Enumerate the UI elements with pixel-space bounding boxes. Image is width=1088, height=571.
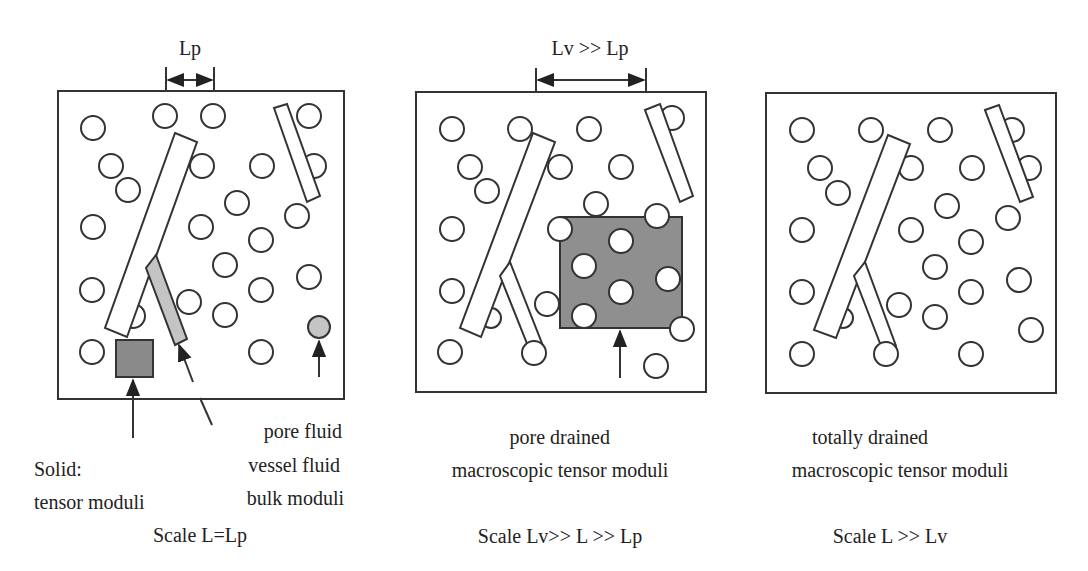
- pore-circle: [874, 342, 898, 366]
- diagram-canvas: [0, 0, 1088, 571]
- panel3-label-line2: macroscopic tensor moduli: [730, 458, 1070, 482]
- dimension-label-lp: Lp: [140, 36, 240, 60]
- panel2-label-line1: pore drained: [450, 425, 610, 449]
- dimension-label-lv: Lv >> Lp: [510, 36, 670, 60]
- solid-label-line2: tensor moduli: [34, 490, 145, 514]
- fluid-label-line1: pore fluid: [200, 419, 342, 443]
- panel-macro-scale: [766, 93, 1056, 393]
- panel-vessel-scale: [416, 68, 706, 392]
- scale-caption-1: Scale L=Lp: [110, 523, 290, 547]
- pore-circle: [522, 341, 546, 365]
- solid-label-line1: Solid:: [34, 457, 82, 481]
- solid-highlight: [116, 340, 153, 377]
- scale-caption-2: Scale Lv>> L >> Lp: [420, 524, 700, 548]
- fluid-label-line2: vessel fluid: [200, 453, 340, 477]
- panel2-label-line2: macroscopic tensor moduli: [390, 458, 730, 482]
- panel-pore-scale: [58, 67, 344, 438]
- pore-fluid-highlight: [308, 316, 330, 338]
- panel3-label-line1: totally drained: [770, 425, 970, 449]
- fluid-label-line3: bulk moduli: [200, 486, 344, 510]
- scale-caption-3: Scale L >> Lv: [790, 524, 990, 548]
